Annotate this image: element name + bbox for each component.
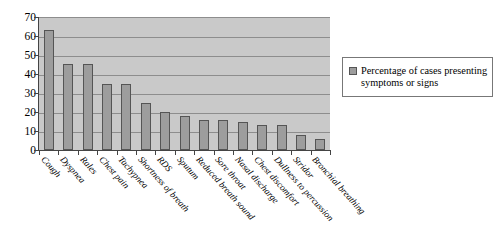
bar <box>180 116 190 150</box>
bar <box>63 64 73 150</box>
bar <box>238 122 248 151</box>
bar-chart: 706050403020100 CoughDyspneaRalesChest p… <box>0 0 504 239</box>
bar <box>44 30 54 150</box>
bar <box>141 103 151 151</box>
y-axis-tick-mark <box>34 17 38 18</box>
x-axis-tick-mark <box>97 151 98 155</box>
x-axis-tick-mark <box>214 151 215 155</box>
x-axis-tick-mark <box>136 151 137 155</box>
bar <box>277 125 287 150</box>
y-axis-tick-label: 50 <box>8 50 36 60</box>
legend-label-line1: Percentage of cases <box>361 65 442 76</box>
x-axis-tick-label: Reduced breath sound <box>194 155 255 222</box>
x-axis-tick-mark <box>78 151 79 155</box>
x-axis-tick-label: Tachypnea <box>117 155 150 190</box>
x-axis-tick-mark <box>39 151 40 155</box>
y-axis-tick-label: 10 <box>8 126 36 136</box>
legend-swatch-icon <box>349 67 357 75</box>
y-axis-tick-label: 0 <box>8 145 36 155</box>
bar <box>199 120 209 150</box>
gridline <box>39 56 330 57</box>
bar <box>296 135 306 150</box>
legend: Percentage of cases presenting symptoms … <box>342 57 493 97</box>
y-axis-tick-label: 20 <box>8 107 36 117</box>
x-axis-tick-mark <box>58 151 59 155</box>
x-axis-tick-label: Sore throat <box>214 155 248 191</box>
x-axis-tick-label: Cough <box>39 155 62 179</box>
legend-label: Percentage of cases presenting symptoms … <box>361 65 491 89</box>
x-axis-tick-mark <box>330 151 331 155</box>
x-axis-tick-mark <box>311 151 312 155</box>
x-axis-line <box>38 150 331 151</box>
x-axis-tick-label: Chest pain <box>97 155 130 190</box>
bar <box>315 139 325 150</box>
y-axis-tick-mark <box>34 74 38 75</box>
x-axis-tick-label: Stridor <box>291 155 315 180</box>
x-axis-tick-label: Dyspnea <box>58 155 86 185</box>
x-axis-tick-mark <box>194 151 195 155</box>
x-axis-tick-mark <box>252 151 253 155</box>
bar <box>102 84 112 151</box>
y-axis-tick-mark <box>34 93 38 94</box>
x-axis-tick-mark <box>233 151 234 155</box>
x-axis-tick-label: Sputum <box>175 155 200 182</box>
x-axis-tick-mark <box>175 151 176 155</box>
x-axis-tick-label: Chest discomfort <box>252 155 301 207</box>
bar <box>83 64 93 150</box>
bar <box>121 84 131 151</box>
x-axis-tick-label: Rales <box>78 155 98 176</box>
bar <box>160 112 170 150</box>
y-axis-tick-mark <box>34 131 38 132</box>
bar <box>257 125 267 150</box>
y-axis-tick-label: 60 <box>8 31 36 41</box>
x-axis-tick-mark <box>117 151 118 155</box>
gridline <box>39 37 330 38</box>
y-axis-tick-mark <box>34 112 38 113</box>
x-axis-tick-label: RDS <box>155 155 173 174</box>
x-axis-tick-mark <box>155 151 156 155</box>
x-axis-tick-mark <box>272 151 273 155</box>
x-axis-tick-label: Nasal discharge <box>233 155 280 205</box>
x-axis-tick-label: Bronchial breathing <box>311 155 367 216</box>
y-axis-tick-mark <box>34 36 38 37</box>
y-axis-tick-label: 70 <box>8 12 36 22</box>
y-axis-tick-label: 40 <box>8 69 36 79</box>
x-axis-tick-mark <box>291 151 292 155</box>
y-axis-tick-mark <box>34 55 38 56</box>
y-axis-tick-label: 30 <box>8 88 36 98</box>
bar <box>218 120 228 150</box>
y-axis: 706050403020100 <box>8 10 36 156</box>
x-axis-tick-label: Dullness to percussion <box>272 155 334 223</box>
legend-entry: Percentage of cases presenting symptoms … <box>349 65 491 89</box>
x-axis-tick-label: Shortness of breath <box>136 155 190 214</box>
plot-area <box>39 17 330 150</box>
